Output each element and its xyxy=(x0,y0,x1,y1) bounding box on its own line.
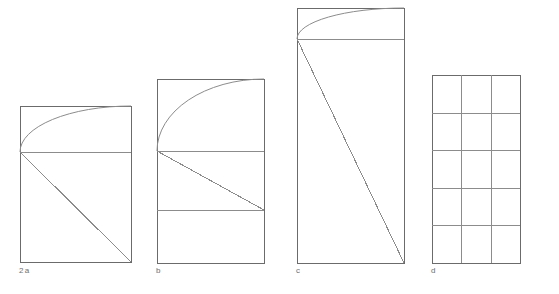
panel-b-rectangle xyxy=(158,80,265,264)
panel-label-a: 2a xyxy=(19,266,29,276)
figure-sheet: 2a b c d xyxy=(0,0,559,294)
panel-label-c: c xyxy=(296,266,300,276)
panel-d-rectangle xyxy=(433,76,521,264)
panel-a-arc xyxy=(20,106,131,152)
panel-a-diagonal-line xyxy=(20,152,131,262)
panel-label-d: d xyxy=(431,266,436,276)
panel-label-b: b xyxy=(156,266,161,276)
panel-a-rectangle xyxy=(21,107,132,263)
panel-letter-d: d xyxy=(431,266,436,275)
panel-c-diagonal-line xyxy=(297,39,404,263)
panel-d-drawing xyxy=(432,75,521,264)
panel-b-drawing xyxy=(157,79,265,264)
panel-b-diagonal-line xyxy=(157,151,264,210)
panel-a-drawing xyxy=(20,106,132,263)
panel-letter-a: a xyxy=(25,266,30,275)
panel-c-rectangle xyxy=(298,9,405,264)
panel-letter-b: b xyxy=(156,266,161,275)
panel-c-arc xyxy=(297,8,404,39)
panel-b-arc xyxy=(157,79,264,151)
figure-number: 2 xyxy=(19,266,24,275)
geometric-figures-drawing xyxy=(0,0,559,294)
panel-c-drawing xyxy=(297,8,405,264)
panel-letter-c: c xyxy=(296,266,300,275)
